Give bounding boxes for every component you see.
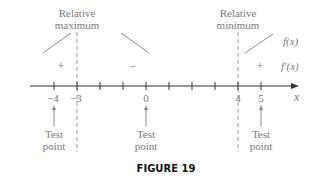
figure-caption: FIGURE 19 [137,163,196,174]
test-point-label-0-line2: point [135,140,158,152]
tick-label-minus-3: −3 [70,92,82,104]
f-prime-of-x-label: f′(x) [281,60,299,73]
test-point-label-minus-4-line2: point [43,140,66,152]
relative-maximum-label-line1: Relative [59,7,96,19]
sign-right: + [257,59,264,73]
tick-label-5: 5 [258,92,264,104]
test-point-label-0-line1: Test [137,128,155,140]
test-point-arrow-0 [144,105,148,126]
decreasing-segment-middle [121,33,149,53]
test-point-label-5-line2: point [250,140,273,152]
tick-label-minus-4: −4 [47,92,59,104]
test-point-arrow-minus-4 [52,105,56,126]
relative-minimum-label-line2: minimum [217,19,260,31]
increasing-segment-right [245,34,273,53]
sign-left: + [58,59,65,73]
relative-maximum-label-line2: maximum [55,19,100,31]
test-point-label-minus-4-line1: Test [45,128,63,140]
axis-arrow-icon [291,83,299,89]
axis-variable-label: x [293,90,300,104]
sign-chart-diagram: Relative maximum Relative minimum f(x) f… [0,0,317,179]
tick-label-0: 0 [143,92,149,104]
test-point-label-5-line1: Test [252,128,270,140]
relative-minimum-label-line1: Relative [220,7,257,19]
tick-label-4: 4 [235,92,241,104]
test-point-arrow-5 [259,105,263,126]
sign-middle: − [130,59,137,73]
f-of-x-label: f(x) [283,35,299,48]
increasing-segment-left [43,33,71,53]
